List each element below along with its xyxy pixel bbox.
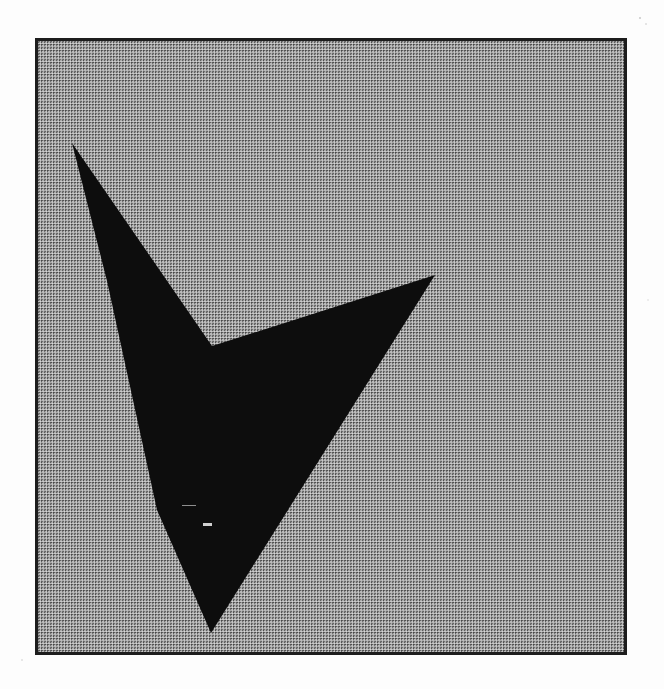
figure-shape-canvas: [38, 41, 624, 652]
checkmark-arrow-polygon: [72, 143, 435, 633]
page-canvas: [0, 0, 664, 689]
figure-frame: [35, 38, 627, 655]
